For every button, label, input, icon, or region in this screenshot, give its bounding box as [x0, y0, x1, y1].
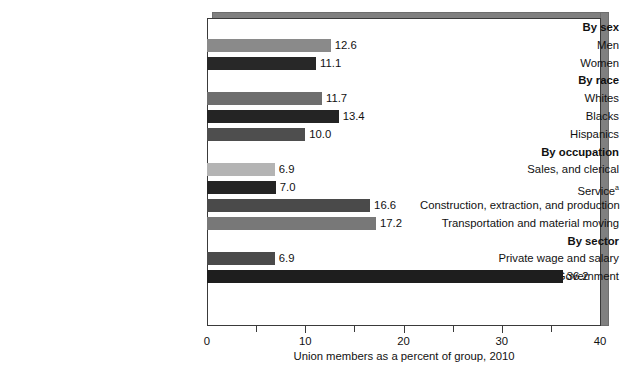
group-header-row: By race — [0, 72, 623, 89]
bar-row-label: Servicea — [420, 179, 623, 196]
x-axis-tick-label: 20 — [384, 334, 424, 348]
x-axis-title: Union members as a percent of group, 201… — [207, 350, 601, 362]
group-header-label: By occupation — [420, 144, 623, 161]
bar-row: Whites11.7 — [0, 90, 623, 107]
x-axis-tick-label: 0 — [187, 334, 227, 348]
bar-row: Construction, extraction, and production… — [0, 197, 623, 214]
bar-row: Private wage and salary6.9 — [0, 250, 623, 267]
bar — [207, 217, 376, 230]
bar-row-label: Hispanics — [420, 126, 623, 143]
bar-row-label: Private wage and salary — [420, 250, 623, 267]
bar — [207, 252, 275, 265]
bar — [207, 128, 305, 141]
bar-value-label: 6.9 — [275, 161, 295, 178]
bar-row-label: Transportation and material moving — [420, 215, 623, 232]
bar-row-label: Blacks — [420, 108, 623, 125]
bar-value-label: 36.2 — [563, 268, 589, 285]
x-axis-minor-tick — [551, 326, 552, 332]
bar-value-label: 17.2 — [376, 215, 402, 232]
x-axis-minor-tick — [453, 326, 454, 332]
bar-row-label: Construction, extraction, and production — [420, 197, 623, 214]
bar-row-label: Men — [420, 37, 623, 54]
group-header-row: By sex — [0, 19, 623, 36]
bar — [207, 57, 316, 70]
bar — [207, 199, 370, 212]
group-header-label: By sector — [420, 233, 623, 250]
bar — [207, 92, 322, 105]
bar-row: Servicea7.0 — [0, 179, 623, 196]
x-axis-major-tick — [305, 326, 306, 333]
bar-value-label: 13.4 — [339, 108, 365, 125]
bar — [207, 163, 275, 176]
footnote-marker: a — [615, 184, 619, 191]
bar — [207, 39, 331, 52]
bar-row: Hispanics10.0 — [0, 126, 623, 143]
group-header-label: By sex — [420, 19, 623, 36]
bar-value-label: 7.0 — [276, 179, 296, 196]
x-axis-tick-label: 40 — [580, 334, 620, 348]
bar-row: Transportation and material moving17.2 — [0, 215, 623, 232]
group-header-row: By occupation — [0, 144, 623, 161]
x-axis-major-tick — [502, 326, 503, 333]
x-axis-tick-label: 10 — [285, 334, 325, 348]
bar-value-label: 16.6 — [370, 197, 396, 214]
bar — [207, 110, 339, 123]
bar-value-label: 12.6 — [331, 37, 357, 54]
x-axis-tick-label: 30 — [482, 334, 522, 348]
bar-row: Men12.6 — [0, 37, 623, 54]
bar-value-label: 11.7 — [322, 90, 347, 107]
group-header-row: By sector — [0, 233, 623, 250]
x-axis-major-tick — [404, 326, 405, 333]
bar-row-label: Women — [420, 55, 623, 72]
bar-row: Women11.1 — [0, 55, 623, 72]
bar-value-label: 11.1 — [316, 55, 341, 72]
x-axis-minor-tick — [354, 326, 355, 332]
bar — [207, 270, 563, 283]
bar-value-label: 10.0 — [305, 126, 331, 143]
bar-row: Blacks13.4 — [0, 108, 623, 125]
group-header-label: By race — [420, 72, 623, 89]
bar-row: Sales, and clerical6.9 — [0, 161, 623, 178]
bar — [207, 181, 276, 194]
bar-row-label: Sales, and clerical — [420, 161, 623, 178]
bar-row: Government36.2 — [0, 268, 623, 285]
bar-row-label: Whites — [420, 90, 623, 107]
bar-chart: By sexMen12.6Women11.1By raceWhites11.7B… — [0, 0, 623, 376]
x-axis-minor-tick — [256, 326, 257, 332]
bar-value-label: 6.9 — [275, 250, 295, 267]
